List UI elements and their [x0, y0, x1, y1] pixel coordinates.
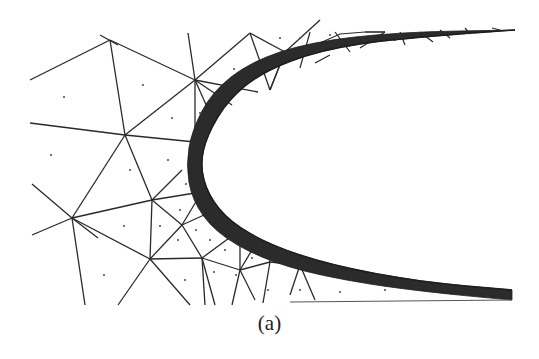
centroid-dot — [235, 274, 237, 276]
centroid-dot — [195, 229, 197, 231]
mesh-figure — [0, 0, 539, 359]
centroid-dot — [123, 225, 125, 227]
centroid-dot — [329, 34, 331, 36]
mesh-edge — [30, 40, 110, 80]
centroid-dot — [129, 169, 131, 171]
figure-caption: (a) — [0, 311, 539, 336]
centroid-dot — [63, 96, 65, 98]
centroid-dot — [224, 249, 226, 251]
centroid-dot — [179, 209, 181, 211]
mesh-edge — [72, 200, 152, 218]
mesh-centroid-dots — [50, 34, 396, 293]
centroid-dot — [142, 84, 144, 86]
centroid-dot — [213, 271, 215, 273]
centroid-dot — [251, 257, 253, 259]
mesh-edge — [125, 80, 195, 135]
centroid-dot — [233, 68, 235, 70]
mesh-edge — [182, 225, 202, 258]
centroid-dot — [267, 289, 269, 291]
centroid-dot — [171, 117, 173, 119]
mesh-edge — [125, 135, 195, 142]
mesh-edge — [188, 33, 195, 80]
mesh-edge — [202, 258, 240, 270]
centroid-dot — [103, 274, 105, 276]
boundary-layer-band — [188, 30, 516, 300]
mesh-edge — [72, 218, 150, 259]
mesh-edge — [32, 218, 72, 235]
centroid-dot — [279, 37, 281, 39]
mesh-edge — [240, 270, 255, 300]
centroid-dot — [184, 279, 186, 281]
centroid-dot — [339, 291, 341, 293]
mesh-edge — [30, 123, 125, 135]
centroid-dot — [299, 289, 301, 291]
mesh-edge — [110, 40, 195, 80]
mesh-edge — [32, 184, 72, 218]
centroid-dot — [185, 183, 187, 185]
mesh-edge — [125, 135, 152, 200]
lower-boundary-line — [290, 300, 512, 302]
centroid-dot — [177, 239, 179, 241]
mesh-edge — [150, 259, 190, 305]
mesh-edge — [118, 259, 150, 305]
mesh-edge — [72, 218, 85, 305]
centroid-dot — [159, 225, 161, 227]
centroid-dot — [50, 154, 52, 156]
centroid-dot — [384, 289, 386, 291]
centroid-dot — [299, 37, 301, 39]
mesh-edge — [152, 200, 182, 225]
centroid-dot — [209, 239, 211, 241]
centroid-dot — [167, 159, 169, 161]
mesh-edge — [72, 135, 125, 218]
mesh-edge — [110, 40, 125, 135]
mesh-edge — [150, 200, 152, 259]
mesh-edge — [150, 225, 182, 259]
mesh-edge — [72, 218, 98, 238]
mesh-edge — [150, 258, 202, 259]
mesh-edge — [263, 262, 270, 303]
